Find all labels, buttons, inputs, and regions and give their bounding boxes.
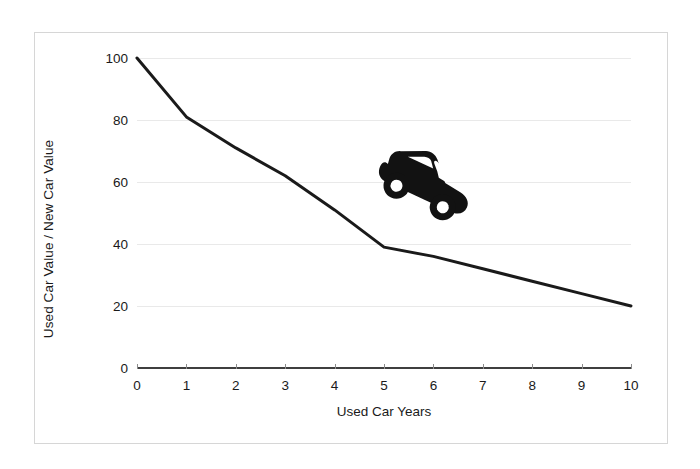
x-tick-label: 3 <box>281 378 289 393</box>
y-tick-label: 0 <box>120 361 128 376</box>
x-tick-label: 9 <box>578 378 586 393</box>
x-tick-label: 2 <box>232 378 240 393</box>
x-tick-label: 5 <box>380 378 388 393</box>
x-tick-label: 8 <box>528 378 536 393</box>
chart-figure: Used Car Value / New Car Value 020406080… <box>34 32 668 444</box>
y-tick-label: 100 <box>105 51 128 66</box>
x-tick-label: 0 <box>133 378 141 393</box>
x-tick-label: 1 <box>183 378 191 393</box>
y-tick-label: 20 <box>113 299 128 314</box>
x-axis-title: Used Car Years <box>137 404 631 419</box>
y-tick-label: 60 <box>113 175 128 190</box>
plot-area: 020406080100 012345678910 Used Car Years <box>137 58 631 368</box>
y-tick-label: 40 <box>113 237 128 252</box>
y-axis-title: Used Car Value / New Car Value <box>35 33 61 445</box>
x-tick-mark <box>631 364 632 369</box>
x-tick-label: 7 <box>479 378 487 393</box>
x-tick-label: 10 <box>623 378 638 393</box>
car-icon <box>369 136 483 232</box>
y-tick-label: 80 <box>113 113 128 128</box>
x-tick-label: 4 <box>331 378 339 393</box>
x-tick-label: 6 <box>430 378 438 393</box>
